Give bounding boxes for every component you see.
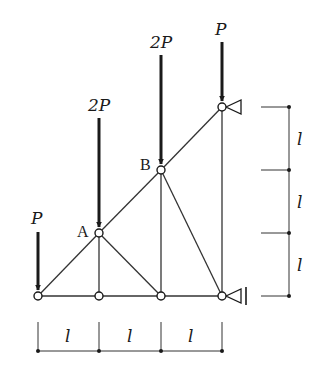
node-b [157, 166, 165, 174]
load-label-2p-a: 2P [87, 95, 111, 115]
node-a [95, 229, 103, 237]
load-label-p-top: P [214, 19, 227, 39]
support-top-pin [226, 100, 241, 114]
vertical-dimension [261, 107, 289, 296]
support-bottom-roller [226, 287, 246, 305]
truss-diagram: P 2P 2P P A B l l l [0, 0, 313, 375]
node-label-b: B [140, 156, 151, 173]
dim-label-h2: l [127, 326, 132, 346]
load-label-p-left: P [30, 208, 43, 228]
dim-label-h3: l [188, 326, 193, 346]
member-diagonal-b [161, 170, 222, 296]
node-label-a: A [77, 223, 89, 240]
node-bottom-1 [34, 292, 42, 300]
truss-members [38, 107, 222, 296]
load-label-2p-b: 2P [149, 32, 173, 52]
member-diagonal-a [99, 233, 161, 296]
member-top-2 [99, 170, 161, 233]
dim-label-v2: l [297, 192, 302, 212]
dim-label-v1: l [297, 129, 302, 149]
member-top-1 [38, 233, 99, 296]
node-bottom-2 [95, 292, 103, 300]
dim-label-h1: l [65, 326, 70, 346]
member-top-3 [161, 107, 222, 170]
node-top [218, 103, 226, 111]
loads [38, 42, 222, 290]
node-bottom-3 [157, 292, 165, 300]
node-bottom-4 [218, 292, 226, 300]
dim-label-v3: l [297, 255, 302, 275]
